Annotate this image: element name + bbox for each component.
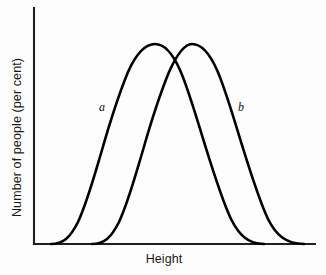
y-axis-label: Number of people (per cent) <box>4 0 56 275</box>
normal-distribution-figure: Number of people (per cent) Height a b <box>0 0 326 275</box>
curve-a <box>51 44 264 244</box>
curve-b <box>92 44 304 244</box>
curve-b-label: b <box>238 100 244 115</box>
curve-a-label: a <box>99 100 105 115</box>
x-axis-label: Height <box>33 252 295 266</box>
